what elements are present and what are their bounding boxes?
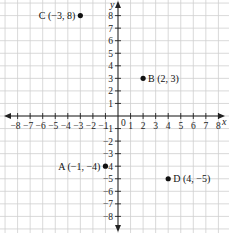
x-tick-label: −3	[73, 121, 83, 131]
point-c: C (−3, 8)	[39, 10, 83, 22]
x-tick-label: −6	[36, 121, 46, 131]
x-tick-label: −4	[61, 121, 71, 131]
x-tick-label: 1	[128, 121, 133, 131]
x-tick-label: 4	[166, 121, 171, 131]
origin-label: 0	[121, 118, 126, 128]
y-axis-bottom-arrow-icon	[115, 225, 121, 232]
x-tick-label: 7	[203, 121, 208, 131]
y-tick-label: −3	[103, 149, 113, 159]
x-tick-label: 8	[216, 121, 221, 131]
y-tick-label: 2	[108, 86, 113, 96]
y-tick-label: 8	[108, 11, 113, 21]
x-tick-label: −5	[48, 121, 58, 131]
y-tick-label: −1	[103, 124, 113, 134]
point-b: B (2, 3)	[141, 73, 179, 85]
y-tick-label: 3	[108, 74, 113, 84]
x-tick-label: −2	[86, 121, 96, 131]
y-tick-label: −8	[103, 212, 113, 222]
x-tick-label: 6	[191, 121, 196, 131]
point-label: D (4, −5)	[173, 173, 210, 185]
y-tick-label: −5	[103, 174, 113, 184]
y-tick-label: −6	[103, 187, 113, 197]
y-tick-label: −7	[103, 199, 113, 209]
y-tick-label: 1	[108, 99, 113, 109]
coordinate-plane: x y 0 −8−7−6−5−4−3−2−112345678−8−7−6−5−4…	[0, 0, 229, 233]
point-marker-icon	[103, 164, 108, 169]
y-tick-label: 5	[108, 49, 113, 59]
y-tick-label: −2	[103, 137, 113, 147]
plotted-points: A (−1, −4)B (2, 3)C (−3, 8)D (4, −5)	[39, 10, 210, 185]
x-tick-label: −7	[23, 121, 33, 131]
point-label: A (−1, −4)	[58, 161, 100, 173]
x-tick-label: 5	[178, 121, 183, 131]
y-tick-label: 6	[108, 36, 113, 46]
x-tick-label: 2	[141, 121, 146, 131]
y-axis-label: y	[109, 0, 115, 10]
point-marker-icon	[78, 13, 83, 18]
point-a: A (−1, −4)	[58, 161, 108, 173]
y-axis-top-arrow-icon	[115, 1, 121, 8]
point-label: B (2, 3)	[148, 73, 179, 85]
point-d: D (4, −5)	[166, 173, 211, 185]
x-axis-label: x	[221, 116, 227, 127]
y-tick-label: 4	[108, 61, 113, 71]
x-tick-label: −8	[10, 121, 20, 131]
x-tick-label: 3	[153, 121, 158, 131]
point-marker-icon	[166, 176, 171, 181]
y-tick-label: 7	[108, 24, 113, 34]
point-label: C (−3, 8)	[39, 10, 75, 22]
point-marker-icon	[141, 76, 146, 81]
